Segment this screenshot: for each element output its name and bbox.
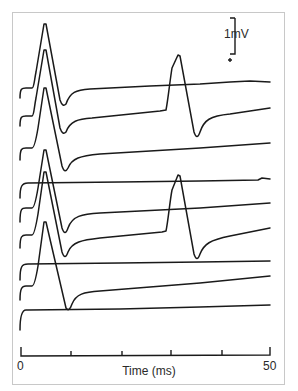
chart-plot (0, 0, 298, 391)
x-axis-title: Time (ms) (0, 364, 298, 378)
trace-2 (20, 50, 270, 137)
trace-9 (20, 305, 270, 330)
trace-4 (20, 178, 270, 198)
trace-5 (20, 150, 270, 233)
scale-bar-label: 1mV (224, 27, 249, 41)
x-axis (21, 347, 270, 356)
trace-3 (20, 88, 270, 171)
trace-6 (20, 172, 270, 259)
